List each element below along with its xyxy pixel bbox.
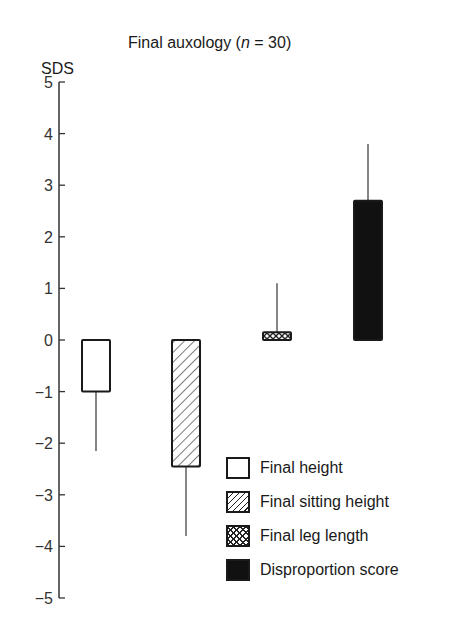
y-tick-label: 3 xyxy=(44,177,53,194)
bar-disproportion-score xyxy=(354,201,382,340)
y-axis: 543210−1−2−3−4−5 xyxy=(35,74,65,607)
legend-item-final-leg-length: Final leg length xyxy=(226,519,399,553)
y-tick-label: −5 xyxy=(35,590,53,607)
bar-final-height xyxy=(82,340,110,392)
y-tick-label: 4 xyxy=(44,126,53,143)
y-tick-label: 2 xyxy=(44,229,53,246)
swatch-diagonal-hatch xyxy=(226,491,250,513)
swatch-cross-hatch xyxy=(226,525,250,547)
y-tick-label: −2 xyxy=(35,435,53,452)
legend-item-final-height: Final height xyxy=(226,451,399,485)
legend-item-disproportion-score: Disproportion score xyxy=(226,553,399,587)
swatch-black xyxy=(226,559,250,581)
legend-item-final-sitting-height: Final sitting height xyxy=(226,485,399,519)
legend: Final height Final sitting height Final … xyxy=(226,451,399,587)
swatch-white xyxy=(226,457,250,479)
y-tick-label: 0 xyxy=(44,332,53,349)
y-tick-label: 5 xyxy=(44,74,53,91)
y-tick-label: −1 xyxy=(35,384,53,401)
y-tick-label: −3 xyxy=(35,487,53,504)
y-tick-label: −4 xyxy=(35,538,53,555)
y-tick-label: 1 xyxy=(44,280,53,297)
bar-final-sitting-height xyxy=(172,340,200,466)
bar-final-leg-length xyxy=(263,332,291,340)
